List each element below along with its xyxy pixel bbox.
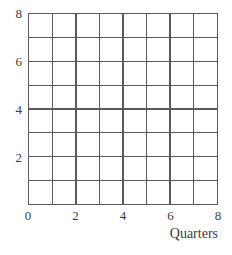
x-axis-title: Quarters — [170, 227, 218, 241]
x-tick-label-0: 0 — [16, 209, 40, 222]
x-tick-label-6: 6 — [159, 209, 183, 222]
y-tick-label-2: 2 — [2, 151, 22, 164]
y-tick-label-8: 8 — [2, 7, 22, 20]
grid-lines — [29, 14, 217, 204]
x-tick-label-4: 4 — [111, 209, 135, 222]
x-tick-label-2: 2 — [64, 209, 88, 222]
y-tick-label-6: 6 — [2, 55, 22, 68]
x-tick-label-8: 8 — [206, 209, 230, 222]
y-tick-label-4: 4 — [2, 103, 22, 116]
blank-grid-chart: 8 6 4 2 0 2 4 6 8 Quarters — [0, 0, 232, 255]
plot-area — [28, 13, 218, 205]
